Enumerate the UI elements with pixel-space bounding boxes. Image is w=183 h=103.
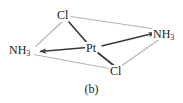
atom-symbol: NH bbox=[9, 43, 26, 57]
atom-symbol: NH bbox=[153, 27, 170, 41]
atom-label-cl-bottom: Cl bbox=[109, 65, 122, 77]
guide-edge-cl-top-nh3-left bbox=[36, 22, 63, 47]
guide-edge-cl-bottom-nh3-left bbox=[34, 55, 110, 69]
guide-edge-cl-top-nh3-right bbox=[71, 17, 159, 30]
bond-pt-nh3-right bbox=[102, 33, 156, 46]
atom-label-nh3-right: NH3 bbox=[152, 28, 175, 40]
figure-caption: (b) bbox=[0, 82, 183, 97]
atom-label-nh3-left: NH3 bbox=[8, 44, 31, 56]
molecular-structure-figure: Cl NH3 Pt NH3 Cl (b) bbox=[0, 0, 183, 103]
bond-pt-nh3-left bbox=[40, 48, 87, 52]
atom-symbol: Cl bbox=[57, 8, 68, 22]
atom-label-cl-top: Cl bbox=[56, 9, 69, 21]
atom-subscript: 3 bbox=[26, 49, 30, 58]
atom-symbol: Pt bbox=[86, 41, 96, 55]
atom-label-pt-center: Pt bbox=[85, 42, 97, 54]
atom-subscript: 3 bbox=[170, 33, 174, 42]
atom-symbol: Cl bbox=[110, 64, 121, 78]
guide-edge-nh3-right-cl-bottom bbox=[121, 39, 161, 67]
